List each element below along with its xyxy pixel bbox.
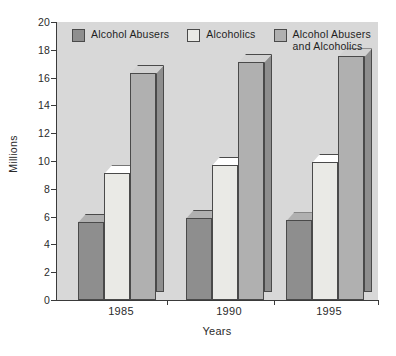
y-tick-mark [51, 189, 56, 190]
legend-swatch-icon [274, 29, 287, 42]
bar-front-face [312, 162, 338, 300]
bar-front-face [78, 222, 104, 300]
x-tick-mark [167, 300, 168, 305]
legend-label: Alcohol Abusers [91, 28, 169, 40]
bar-1995-series-2 [338, 48, 372, 300]
y-tick-label: 18 [24, 45, 50, 56]
y-tick-label: 2 [24, 267, 50, 278]
y-tick-mark [51, 161, 56, 162]
bar-side-face [264, 54, 272, 292]
y-tick-label: 20 [24, 17, 50, 28]
legend-swatch-icon [72, 29, 85, 42]
bar-1985-series-2 [130, 65, 164, 300]
bar-front-face [104, 173, 130, 300]
y-tick-mark [51, 22, 56, 23]
x-tick-label-1985: 1985 [91, 306, 151, 317]
legend-label: Alcoholics [206, 28, 255, 40]
y-tick-mark [51, 50, 56, 51]
bar-front-face [238, 62, 264, 300]
y-tick-mark [51, 272, 56, 273]
y-tick-mark [51, 78, 56, 79]
bar-front-face [186, 218, 212, 300]
bar-side-face [156, 65, 164, 292]
bar-front-face [286, 220, 312, 300]
y-tick-mark [51, 133, 56, 134]
x-axis-label: Years [56, 325, 378, 337]
bar-side-face [364, 48, 372, 292]
bar-1990-series-2 [238, 54, 272, 300]
y-tick-label: 12 [24, 128, 50, 139]
alcohol-abusers-bar-chart: 20181614121086420 198519901995 Millions … [0, 0, 396, 356]
legend-label: Alcohol Abusers and Alcoholics [293, 28, 371, 52]
chart-legend: Alcohol AbusersAlcoholicsAlcohol Abusers… [72, 28, 371, 52]
y-axis-line [56, 22, 57, 301]
y-axis-label: Millions [7, 124, 19, 184]
y-tick-mark [51, 217, 56, 218]
legend-item-2: Alcohol Abusers and Alcoholics [274, 28, 371, 52]
y-tick-mark [51, 244, 56, 245]
x-tick-label-1990: 1990 [199, 306, 259, 317]
y-tick-label: 0 [24, 295, 50, 306]
y-tick-label: 10 [24, 156, 50, 167]
y-tick-label: 14 [24, 100, 50, 111]
bar-front-face [130, 73, 156, 300]
x-tick-mark [274, 300, 275, 305]
legend-swatch-icon [187, 29, 200, 42]
legend-item-1: Alcoholics [187, 28, 255, 42]
y-tick-label: 16 [24, 73, 50, 84]
x-axis-line [56, 300, 379, 301]
x-tick-label-1995: 1995 [299, 306, 359, 317]
bar-front-face [338, 56, 364, 300]
y-tick-label: 4 [24, 239, 50, 250]
y-tick-label: 6 [24, 212, 50, 223]
y-tick-label: 8 [24, 184, 50, 195]
y-tick-mark [51, 105, 56, 106]
x-tick-mark [378, 300, 379, 305]
y-tick-mark [51, 300, 56, 301]
bar-front-face [212, 165, 238, 300]
legend-item-0: Alcohol Abusers [72, 28, 169, 42]
